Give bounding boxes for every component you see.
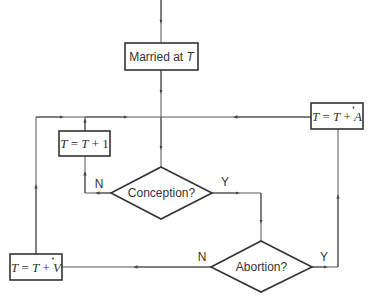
label-conception-yes: Y xyxy=(221,175,229,189)
node-add-v-label: T = T + V xyxy=(11,260,63,275)
node-add-a-label: T = T + A xyxy=(312,109,362,124)
node-conception-label: Conception? xyxy=(128,186,196,200)
node-add-a: T = T + A xyxy=(311,103,363,129)
flowchart-canvas: Married at T T = T + 1 T = T + A T = T +… xyxy=(0,0,370,300)
dot-accent-icon xyxy=(353,107,355,109)
label-abortion-no: N xyxy=(198,250,207,264)
node-conception: Conception? xyxy=(111,167,212,219)
label-conception-no: N xyxy=(95,177,104,191)
node-increment-label: T = T + 1 xyxy=(60,136,109,151)
node-married: Married at T xyxy=(125,43,198,70)
edge-conception-yes xyxy=(212,193,261,241)
node-add-v: T = T + V xyxy=(10,254,63,280)
dot-accent-icon xyxy=(52,258,54,260)
node-abortion-label: Abortion? xyxy=(236,260,288,274)
label-abortion-yes: Y xyxy=(320,250,328,264)
node-married-label: Married at T xyxy=(129,50,195,64)
node-increment: T = T + 1 xyxy=(59,131,110,156)
edge-abortion-yes xyxy=(312,129,338,267)
node-abortion: Abortion? xyxy=(211,241,312,292)
